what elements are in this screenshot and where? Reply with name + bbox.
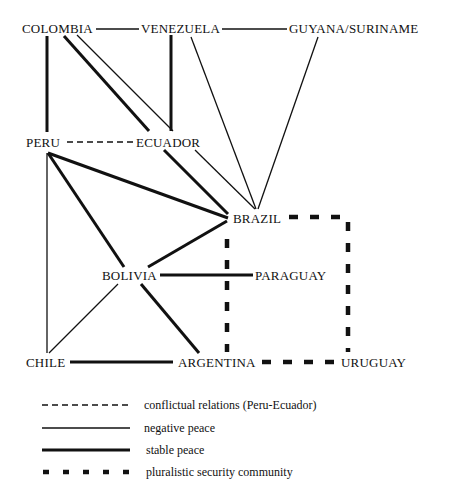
edge-brazil-bolivia (148, 221, 227, 267)
legend-label-negative-peace: negative peace (144, 421, 215, 435)
edge-guyana-brazil (258, 37, 318, 209)
node-peru: PERU (26, 135, 60, 150)
node-paraguay: PARAGUAY (255, 268, 327, 283)
node-venezuela: VENEZUELA (141, 21, 220, 36)
legend-item-negative-peace: negative peace (42, 421, 215, 435)
legend-label-stable-peace: stable peace (146, 443, 204, 457)
node-uruguay: URUGUAY (341, 355, 407, 370)
edges (47, 29, 348, 362)
legend-item-conflictual: conflictual relations (Peru-Ecuador) (42, 398, 317, 412)
nodes: COLOMBIA VENEZUELA GUYANA/SURINAME PERU … (22, 21, 418, 370)
regional-relations-diagram: COLOMBIA VENEZUELA GUYANA/SURINAME PERU … (0, 0, 449, 500)
legend: conflictual relations (Peru-Ecuador) neg… (42, 398, 317, 479)
legend-label-conflictual: conflictual relations (Peru-Ecuador) (144, 398, 317, 412)
node-brazil: BRAZIL (233, 211, 281, 226)
legend-item-pluralistic: pluralistic security community (43, 465, 293, 479)
node-bolivia: BOLIVIA (102, 268, 157, 283)
edge-colombia-brazil (77, 35, 173, 131)
edge-ecuador-brazil-thin (195, 150, 255, 209)
node-guyana-suriname: GUYANA/SURINAME (289, 21, 418, 36)
edge-ecuador-brazil (164, 150, 228, 214)
edge-bolivia-chile (49, 284, 118, 353)
node-ecuador: ECUADOR (136, 135, 200, 150)
legend-item-stable-peace: stable peace (42, 443, 204, 457)
legend-label-pluralistic: pluralistic security community (146, 465, 293, 479)
node-argentina: ARGENTINA (178, 355, 256, 370)
edge-bolivia-argentina (141, 284, 199, 353)
edge-venezuela-brazil (191, 37, 256, 209)
edge-colombia-ecuador (64, 36, 149, 131)
edge-peru-bolivia (48, 153, 124, 267)
node-colombia: COLOMBIA (22, 21, 93, 36)
node-chile: CHILE (26, 355, 65, 370)
